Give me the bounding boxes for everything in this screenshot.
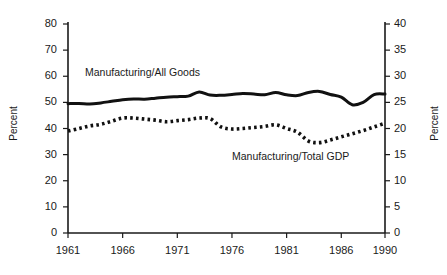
chart-container: Percent Percent Manufacturing/All Goods … [0, 0, 447, 275]
series-line-manufacturing-total-gdp [68, 118, 385, 143]
plot-area [0, 0, 447, 275]
series-line-manufacturing-all-goods [68, 91, 385, 105]
